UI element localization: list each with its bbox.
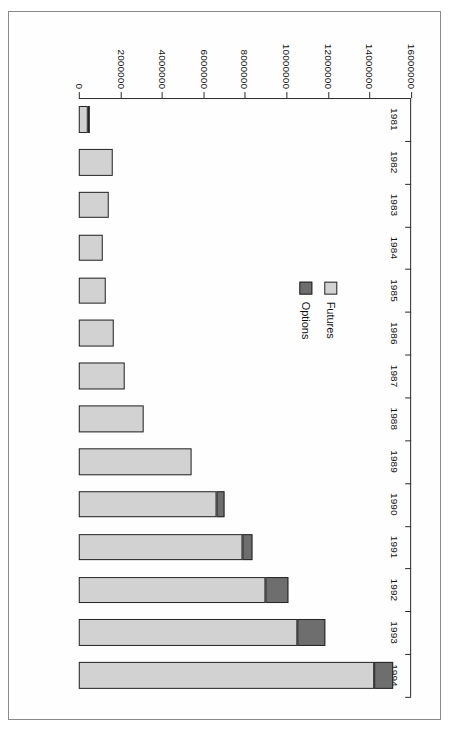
category-tick <box>405 184 411 185</box>
bar-segment-futures <box>78 149 112 176</box>
category-tick <box>405 312 411 313</box>
bar-segment-futures <box>78 363 124 390</box>
legend-item-futures: Futures <box>324 282 337 340</box>
bar-group <box>78 448 191 475</box>
bar-segment-futures <box>78 106 87 133</box>
bar-segment-options <box>296 619 324 646</box>
category-tick-label: 1991 <box>389 536 399 559</box>
bar-segment-futures <box>78 534 242 561</box>
legend-label-options: Options <box>300 302 311 340</box>
bar-group <box>78 277 105 304</box>
bar-segment-options <box>216 491 223 518</box>
value-tick <box>328 92 329 98</box>
bar-group <box>78 491 223 518</box>
value-tick-label: 16000000 <box>406 44 416 89</box>
category-tick <box>405 269 411 270</box>
category-tick <box>405 440 411 441</box>
bar-group <box>78 192 108 219</box>
value-tick <box>411 92 412 98</box>
category-tick-label: 1981 <box>389 108 399 131</box>
category-tick <box>405 397 411 398</box>
value-tick <box>244 92 245 98</box>
value-tick <box>369 92 370 98</box>
bar-segment-futures <box>78 406 142 433</box>
legend-swatch-options-icon <box>299 282 312 295</box>
category-tick <box>405 226 411 227</box>
value-tick <box>120 92 121 98</box>
value-tick-label: 12000000 <box>323 44 333 89</box>
category-tick-label: 1984 <box>389 236 399 259</box>
category-tick-label: 1990 <box>389 493 399 516</box>
value-tick-label: 8000000 <box>239 49 249 89</box>
value-tick <box>78 92 79 98</box>
value-tick <box>203 92 204 98</box>
legend-label-futures: Futures <box>325 302 336 339</box>
bar-segment-options <box>373 662 393 689</box>
category-tick <box>405 569 411 570</box>
plot-area: 0200000040000006000000800000010000000120… <box>78 98 410 697</box>
category-tick <box>405 526 411 527</box>
category-tick-label: 1987 <box>389 365 399 388</box>
bar-group <box>78 363 124 390</box>
category-tick-label: 1993 <box>389 621 399 644</box>
category-tick-label: 1986 <box>389 322 399 345</box>
bar-group <box>78 662 393 689</box>
bar-segment-futures <box>78 234 102 261</box>
value-tick-label: 10000000 <box>281 44 291 89</box>
bar-segment-futures <box>78 577 265 604</box>
category-tick-label: 1985 <box>389 279 399 302</box>
value-axis-line <box>78 98 410 99</box>
rotated-chart-stage: Contracts 020000004000000600000080000001… <box>12 16 436 715</box>
bar-segment-futures <box>78 320 113 347</box>
value-tick-label: 14000000 <box>364 44 374 89</box>
category-tick <box>405 141 411 142</box>
value-tick-label: 2000000 <box>115 49 125 89</box>
bar-group <box>78 234 102 261</box>
bar-segment-options <box>265 577 288 604</box>
bar-group <box>78 577 288 604</box>
bar-segment-futures <box>78 277 105 304</box>
bar-segment-futures <box>78 619 296 646</box>
category-tick-label: 1989 <box>389 450 399 473</box>
value-tick <box>161 92 162 98</box>
category-tick-label: 1992 <box>389 579 399 602</box>
chart-stage-wrapper: Contracts 020000004000000600000080000001… <box>8 11 441 720</box>
category-tick-label: 1982 <box>389 151 399 174</box>
value-tick-label: 4000000 <box>156 49 166 89</box>
legend-swatch-futures-icon <box>324 282 337 295</box>
category-tick-label: 1983 <box>389 194 399 217</box>
bar-segment-futures <box>78 491 216 518</box>
value-tick <box>286 92 287 98</box>
bar-group <box>78 534 251 561</box>
bar-group <box>78 619 324 646</box>
legend-item-options: Options <box>299 282 312 340</box>
category-tick <box>405 697 411 698</box>
value-tick-label: 6000000 <box>198 49 208 89</box>
scanned-page: Contracts 020000004000000600000080000001… <box>0 0 451 732</box>
category-tick <box>405 483 411 484</box>
bar-segment-futures <box>78 192 108 219</box>
bar-group <box>78 320 113 347</box>
bar-group <box>78 406 142 433</box>
bar-group <box>78 149 112 176</box>
bar-segment-options <box>242 534 251 561</box>
category-tick <box>405 611 411 612</box>
category-tick <box>405 355 411 356</box>
chart-legend: Futures Options <box>299 282 337 340</box>
value-tick-label: 0 <box>73 83 83 89</box>
bar-segment-options <box>87 106 89 133</box>
category-tick <box>405 654 411 655</box>
bar-segment-futures <box>78 448 191 475</box>
bar-group <box>78 106 89 133</box>
category-tick-label: 1988 <box>389 408 399 431</box>
bar-segment-futures <box>78 662 373 689</box>
